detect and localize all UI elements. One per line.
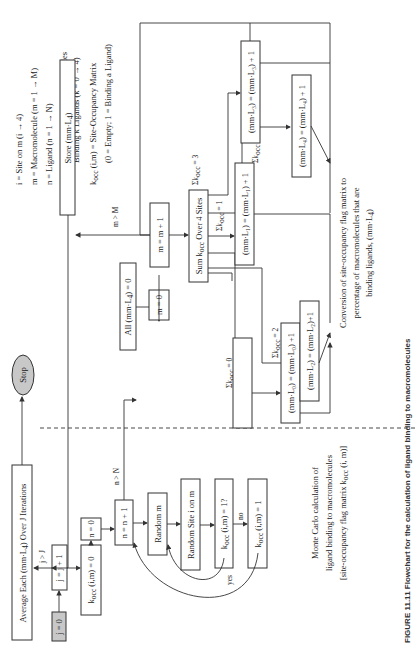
figure-caption: FIGURE 11.11 Flowchart for the calculati… xyxy=(403,338,412,643)
randomsite-label: Random Site i on m xyxy=(186,491,196,559)
j0-label: j = 0 xyxy=(54,619,64,636)
legend-line-kocc: kocc (i,m) = Site-Occupancy Matrix xyxy=(88,62,100,185)
svg-text:Conversion of site-occupancy f: Conversion of site-occupancy flag matrix… xyxy=(338,178,348,328)
arrow-nn1-all0 xyxy=(124,400,136,500)
result-l0 xyxy=(233,338,252,428)
conversion-annotation: Conversion of site-occupancy flag matrix… xyxy=(338,178,376,328)
label-no: no xyxy=(236,512,245,520)
nn1-label: n = n + 1 xyxy=(119,508,129,539)
l0-box xyxy=(233,338,252,428)
randomm-label: Random m xyxy=(153,505,163,543)
flowchart: i = Site on m (i → 4) m = Macromolecule … xyxy=(0,0,417,663)
svg-text:ligand binding to macromolecul: ligand binding to macromolecules xyxy=(324,455,334,571)
svg-text:binding ligands, (mm·L4): binding ligands, (mm·L4) xyxy=(364,209,376,297)
stop-label: Stop xyxy=(18,367,28,383)
svg-text:[site-occupancy flag matrix ko: [site-occupancy flag matrix kocc (i, m)] xyxy=(338,446,350,580)
l3-result-label: (mm·L₃) = (mm·L₃) + 1 xyxy=(246,51,256,133)
svg-text:percentage of macromolecules t: percentage of macromolecules that are xyxy=(351,187,361,318)
l4-result-label: (mm·L₄) = (mm·L₄) + 1 xyxy=(297,85,307,167)
label-sum2: Σkocc = 2 xyxy=(271,327,282,358)
monte-carlo-annotation: Monte Carlo calculation of ligand bindin… xyxy=(310,446,350,580)
label-m-gt-M: m > M xyxy=(111,206,120,227)
n0-label: n = 0 xyxy=(86,520,96,538)
jj1-label: j = j + 1 xyxy=(54,554,64,582)
l0-result-label: (mm·L₀) = (mm·L₀) +1 xyxy=(286,333,296,413)
rotated-figure: i = Site on m (i → 4) m = Macromolecule … xyxy=(0,0,417,663)
svg-text:Monte Carlo calculation of: Monte Carlo calculation of xyxy=(310,467,320,559)
label-yes: yes xyxy=(225,575,234,585)
l2-result-label: (mm·L₂) = (mm·L₂)+1 xyxy=(305,312,315,390)
label-sum1: Σkocc = 1 xyxy=(215,200,226,231)
legend-line-empty: (0 = Empty; 1 = Binding a Ligand) xyxy=(103,44,113,163)
arrow-store-jj1 xyxy=(52,215,68,568)
legend-line-m: m = Macromolecule (m = 1 → M) xyxy=(29,68,39,185)
label-j-gt-J: j > J xyxy=(38,550,47,564)
legend-line-n: n = Ligand (n = 1 → N) xyxy=(44,103,54,185)
label-n-gt-N: n > N xyxy=(112,467,121,485)
label-sum3: Σkocc = 3 xyxy=(191,154,202,185)
legend-line-i: i = Site on m (i → 4) xyxy=(14,114,24,185)
l1-result-label: (mm·L₁) = (mm·L₁) + 1 xyxy=(240,173,250,255)
mm1-label: m = m + 1 xyxy=(155,217,165,253)
